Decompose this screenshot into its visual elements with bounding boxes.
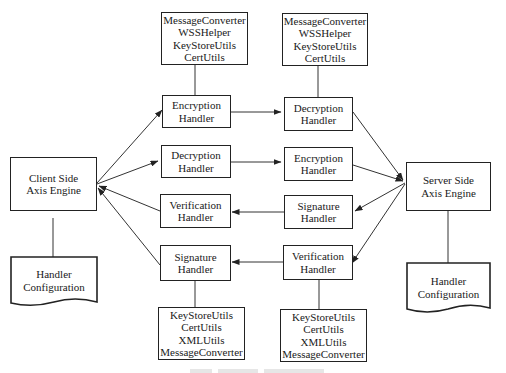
- util-line: CertUtils: [184, 51, 224, 64]
- left-verification-handler: Verification Handler: [160, 194, 231, 228]
- right-decryption-handler: Decryption Handler: [284, 97, 353, 131]
- left-encryption-handler: Encryption Handler: [162, 95, 231, 128]
- server-handler-configuration: Handler Configuration: [407, 265, 490, 313]
- left-signature-handler: Signature Handler: [160, 245, 231, 281]
- diagram-canvas: Client Side Axis Engine Server Side Axis…: [0, 0, 506, 373]
- right-verification-handler: Verification Handler: [283, 245, 353, 280]
- client-config-line-1: Handler: [11, 268, 97, 281]
- handler-line: Encryption: [172, 99, 221, 112]
- client-engine-line-1: Client Side: [29, 172, 78, 185]
- util-line: WSSHelper: [178, 26, 231, 39]
- handler-line: Encryption: [294, 152, 343, 165]
- handler-line: Signature: [297, 200, 339, 213]
- handler-line: Decryption: [171, 149, 220, 162]
- top-left-utils: MessageConverter WSSHelper KeyStoreUtils…: [161, 12, 248, 65]
- util-line: WSSHelper: [299, 27, 352, 40]
- handler-line: Handler: [301, 164, 336, 177]
- util-line: MessageConverter: [163, 14, 245, 27]
- figure-caption-faint: [190, 361, 350, 369]
- client-engine-line-2: Axis Engine: [26, 184, 81, 197]
- handler-line: Handler: [178, 162, 213, 175]
- util-line: CertUtils: [181, 321, 221, 334]
- handler-line: Verification: [170, 199, 222, 212]
- server-axis-engine: Server Side Axis Engine: [406, 162, 491, 211]
- client-handler-configuration: Handler Configuration: [11, 258, 97, 306]
- handler-line: Handler: [179, 112, 214, 125]
- util-line: CertUtils: [305, 52, 345, 65]
- server-engine-line-2: Axis Engine: [421, 187, 476, 200]
- client-config-line-2: Configuration: [11, 281, 97, 294]
- util-line: XMLUtils: [179, 334, 225, 347]
- util-line: KeyStoreUtils: [170, 309, 233, 322]
- handler-line: Handler: [301, 212, 336, 225]
- server-config-line-1: Handler: [407, 275, 490, 288]
- bottom-left-utils: KeyStoreUtils CertUtils XMLUtils Message…: [158, 307, 245, 360]
- util-line: MessageConverter: [284, 15, 366, 28]
- util-line: MessageConverter: [160, 346, 242, 359]
- util-line: KeyStoreUtils: [294, 40, 357, 53]
- util-line: MessageConverter: [282, 348, 364, 361]
- server-engine-line-1: Server Side: [423, 174, 474, 187]
- left-decryption-handler: Decryption Handler: [161, 145, 231, 178]
- handler-line: Decryption: [294, 102, 343, 115]
- handler-line: Handler: [300, 263, 335, 276]
- handler-line: Signature: [174, 251, 216, 264]
- right-signature-handler: Signature Handler: [284, 195, 353, 229]
- handler-line: Verification: [292, 250, 344, 263]
- bottom-right-utils: KeyStoreUtils CertUtils XMLUtils Message…: [280, 309, 367, 362]
- server-config-line-2: Configuration: [407, 288, 490, 301]
- util-line: XMLUtils: [301, 336, 347, 349]
- handler-line: Handler: [178, 263, 213, 276]
- util-line: CertUtils: [303, 323, 343, 336]
- util-line: KeyStoreUtils: [292, 311, 355, 324]
- util-line: KeyStoreUtils: [173, 39, 236, 52]
- right-encryption-handler: Encryption Handler: [284, 147, 353, 181]
- client-axis-engine: Client Side Axis Engine: [10, 157, 97, 211]
- handler-line: Handler: [178, 211, 213, 224]
- handler-line: Handler: [301, 114, 336, 127]
- top-right-utils: MessageConverter WSSHelper KeyStoreUtils…: [282, 13, 368, 66]
